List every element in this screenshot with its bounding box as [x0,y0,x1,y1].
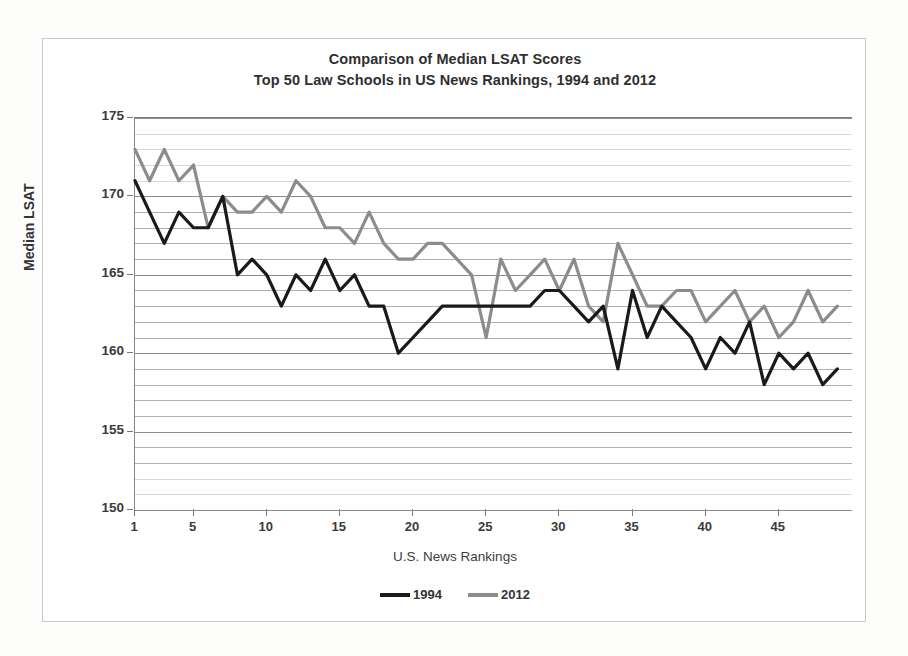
y-tick-mark [127,431,133,432]
chart-legend: 19942012 [43,587,867,602]
x-tick-label: 35 [612,519,652,534]
legend-entry-1994[interactable]: 1994 [380,587,442,602]
chart-title-line-1: Comparison of Median LSAT Scores [329,51,582,67]
x-tick-label: 40 [685,519,725,534]
y-tick-mark [127,509,133,510]
plot-area [134,117,852,511]
x-axis-title: U.S. News Rankings [43,549,867,564]
y-tick-label: 160 [72,343,124,358]
chart-figure: Comparison of Median LSAT Scores Top 50 … [42,38,866,622]
x-tick-label: 45 [758,519,798,534]
x-tick-label: 5 [173,519,213,534]
series-line-2012 [135,149,837,337]
x-tick-label: 25 [465,519,505,534]
gridline [135,510,852,511]
x-tick-label: 10 [246,519,286,534]
legend-label: 2012 [501,587,530,602]
y-tick-label: 150 [72,500,124,515]
y-tick-mark [127,274,133,275]
legend-entry-2012[interactable]: 2012 [468,587,530,602]
chart-title-line-2: Top 50 Law Schools in US News Rankings, … [43,70,867,91]
y-tick-label: 155 [72,422,124,437]
y-axis-title: Median LSAT [21,183,37,271]
x-tick-label: 30 [538,519,578,534]
y-tick-label: 165 [72,265,124,280]
y-tick-mark [127,195,133,196]
y-tick-label: 175 [72,108,124,123]
y-tick-label: 170 [72,186,124,201]
x-tick-label: 1 [114,519,154,534]
legend-swatch-icon [380,593,410,597]
x-tick-label: 15 [319,519,359,534]
y-tick-mark [127,352,133,353]
x-tick-label: 20 [392,519,432,534]
series-lines [135,118,852,510]
legend-label: 1994 [413,587,442,602]
legend-swatch-icon [468,593,498,597]
chart-title: Comparison of Median LSAT Scores Top 50 … [43,49,867,91]
y-tick-mark [127,117,133,118]
